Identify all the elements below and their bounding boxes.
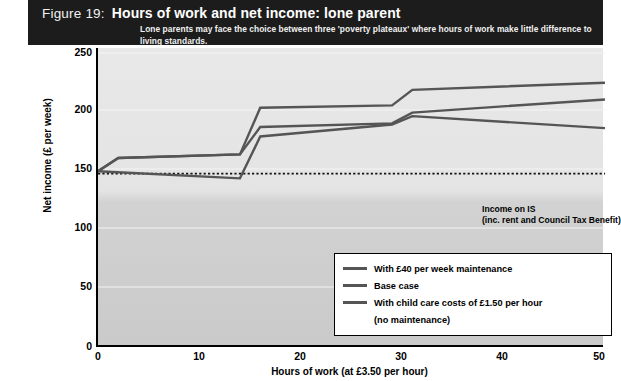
legend-label-childcare: With child care costs of £1.50 per hour [374, 298, 542, 308]
figure-title-row: Figure 19: Hours of work and net income:… [28, 5, 603, 21]
legend-item-base-case: Base case [343, 277, 603, 294]
legend-label-childcare-continued: (no maintenance) [374, 315, 450, 325]
background-bands [98, 53, 605, 287]
y-axis-tick-labels: 250 200 150 100 50 0 [52, 48, 92, 347]
x-tick-50: 50 [593, 350, 605, 362]
legend-swatch-icon-maintenance [343, 267, 367, 270]
legend-item-childcare: With child care costs of £1.50 per hour [343, 294, 603, 311]
series-line-0 [98, 83, 605, 172]
y-tick-200: 200 [58, 103, 92, 115]
x-tick-20: 20 [294, 350, 306, 362]
y-tick-0: 0 [58, 340, 92, 352]
x-tick-40: 40 [496, 350, 508, 362]
legend-item-childcare-continued: (no maintenance) [343, 311, 603, 328]
chart-legend: With £40 per week maintenance Base case … [334, 253, 612, 336]
y-tick-100: 100 [58, 221, 92, 233]
x-tick-0: 0 [95, 350, 101, 362]
data-series-group [98, 83, 605, 179]
income-on-is-annotation: Income on IS (inc. rent and Council Tax … [482, 204, 621, 226]
y-axis-title: Net income (£ per week) [42, 61, 53, 251]
x-tick-30: 30 [395, 350, 407, 362]
x-axis-tick-labels: 0 10 20 30 40 50 [96, 350, 608, 366]
figure-title: Hours of work and net income: lone paren… [112, 5, 401, 21]
x-axis-title: Hours of work (at £3.50 per hour) [96, 366, 603, 377]
legend-label-base-case: Base case [374, 281, 419, 291]
is-annotation-line-1: Income on IS [482, 204, 621, 215]
y-tick-150: 150 [58, 162, 92, 174]
legend-swatch-icon-base-case [343, 284, 367, 287]
y-tick-50: 50 [58, 280, 92, 292]
figure-number-label: Figure 19: [42, 6, 105, 21]
is-annotation-line-2: (inc. rent and Council Tax Benefit) [482, 215, 621, 226]
legend-item-maintenance: With £40 per week maintenance [343, 260, 603, 277]
legend-label-maintenance: With £40 per week maintenance [374, 264, 512, 274]
figure-header-banner: Figure 19: Hours of work and net income:… [28, 0, 603, 45]
legend-swatch-icon-childcare [343, 301, 367, 304]
y-tick-250: 250 [58, 46, 92, 58]
figure-subtitle: Lone parents may face the choice between… [28, 21, 603, 47]
x-tick-10: 10 [193, 350, 205, 362]
